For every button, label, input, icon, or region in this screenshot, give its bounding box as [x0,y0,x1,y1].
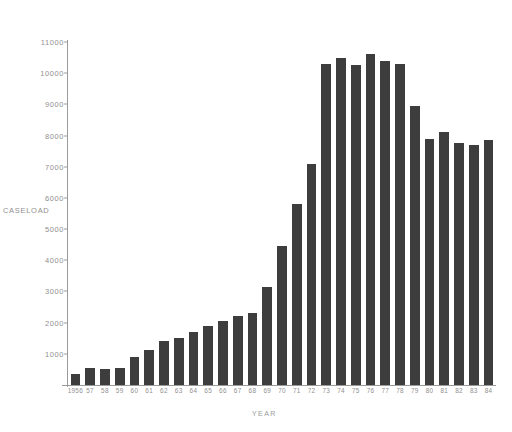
bar [100,369,110,385]
y-tick-label: 11000 [2,38,64,47]
y-tick-label: 3000 [2,287,64,296]
x-tick-label: 69 [263,387,271,394]
bar [351,65,361,385]
y-tick-label: 1000 [2,349,64,358]
bar [395,64,405,385]
x-tick-label: 70 [278,387,286,394]
x-tick-label: 79 [411,387,419,394]
x-tick-label: 84 [485,387,493,394]
bar [85,368,95,385]
bar [218,321,228,385]
bar-fill [277,246,287,385]
y-tick-label: 6000 [2,193,64,202]
x-tick-label: 72 [308,387,316,394]
bar-fill [336,58,346,385]
bar-fill [159,341,169,385]
bar-fill [189,332,199,385]
x-tick-label: 1956 [68,387,83,394]
bar-fill [307,164,317,385]
x-tick-label: 59 [116,387,124,394]
bar-fill [395,64,405,385]
bar-fill [144,350,154,385]
bar-fill [115,368,125,385]
bar-chart: 1100010000900080007000600050004000300020… [0,0,512,432]
x-tick-label: 62 [160,387,168,394]
bar [469,145,479,385]
x-tick-label: 83 [470,387,478,394]
bar [115,368,125,385]
x-tick-label: 81 [440,387,448,394]
x-tick-label: 68 [249,387,257,394]
x-tick-label: 60 [131,387,139,394]
bar-fill [248,313,258,385]
bar-fill [484,140,494,385]
bar-fill [130,357,140,385]
x-axis-title: YEAR [252,410,277,417]
bar [203,326,213,385]
x-tick-label: 75 [352,387,360,394]
bar [439,132,449,385]
bar-fill [321,64,331,385]
bar [336,58,346,385]
bar-fill [425,139,435,385]
x-tick-label: 82 [455,387,463,394]
bar [277,246,287,385]
x-tick-label: 64 [190,387,198,394]
bar [484,140,494,385]
x-tick-label: 63 [175,387,183,394]
x-tick-label: 73 [322,387,330,394]
bar [144,350,154,385]
bar [380,61,390,385]
x-tick-label: 76 [367,387,375,394]
bar [159,341,169,385]
bar-fill [366,54,376,385]
bar-fill [262,287,272,385]
bar-fill [410,106,420,385]
bar [248,313,258,385]
y-tick-label: 8000 [2,131,64,140]
bar-fill [218,321,228,385]
bar [71,374,81,385]
x-tick-label: 66 [219,387,227,394]
y-tick-label: 10000 [2,69,64,78]
y-tick-label: 4000 [2,256,64,265]
bar [262,287,272,385]
bar-fill [174,338,184,385]
bar-fill [351,65,361,385]
bar-fill [380,61,390,385]
x-tick-label: 57 [86,387,94,394]
y-axis-title: CASELOAD [3,206,49,215]
bar-fill [439,132,449,385]
bar [174,338,184,385]
bar [366,54,376,385]
bar-fill [454,143,464,385]
x-axis-line [62,385,496,386]
x-tick-label: 77 [381,387,389,394]
bar-fill [100,369,110,385]
bar [292,204,302,385]
bar [233,316,243,385]
bar-fill [85,368,95,385]
x-tick-label: 67 [234,387,242,394]
x-tick-label: 80 [426,387,434,394]
bar-fill [71,374,81,385]
bar-fill [203,326,213,385]
bar-series [68,42,496,385]
bar-fill [233,316,243,385]
y-tick-label: 2000 [2,318,64,327]
x-tick-label: 78 [396,387,404,394]
bar-fill [469,145,479,385]
x-tick-label: 71 [293,387,301,394]
x-tick-label: 65 [204,387,212,394]
x-tick-label: 74 [337,387,345,394]
x-tick-label: 61 [145,387,153,394]
y-tick-label: 7000 [2,162,64,171]
y-axis-tick-labels: 1100010000900080007000600050004000300020… [0,0,64,432]
bar-fill [292,204,302,385]
bar [454,143,464,385]
x-axis-tick-labels: 1956575859606162636465666768697071727374… [68,387,496,401]
y-tick-label: 5000 [2,225,64,234]
bar [130,357,140,385]
bar [410,106,420,385]
x-tick-label: 58 [101,387,109,394]
